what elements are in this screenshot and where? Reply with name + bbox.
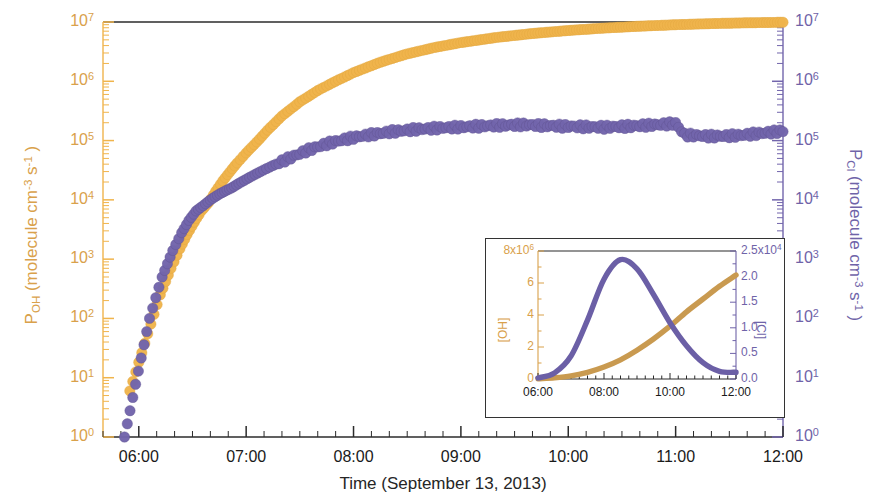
x-tick-label: 07:00 — [226, 448, 266, 466]
inset-y-right-tick-label: 0.0 — [741, 371, 758, 385]
y-left-tick-label: 103 — [40, 248, 94, 267]
x-tick-label: 06:00 — [119, 448, 159, 466]
y-right-tick-label: 101 — [795, 367, 849, 386]
y-right-tick-label: 104 — [795, 189, 849, 208]
inset-y-left-tick-label: 0 — [498, 371, 534, 385]
inset-y-left-tick-label: 6 — [498, 275, 534, 289]
y-right-tick-label: 107 — [795, 11, 849, 30]
y-left-tick-label: 102 — [40, 307, 94, 326]
inset-x-tick-label: 06:00 — [523, 385, 553, 399]
inset-y-right-tick-label: 2.0 — [741, 269, 758, 283]
x-tick-label: 11:00 — [656, 448, 695, 466]
inset-y-right-tick-label: 1.5 — [741, 294, 758, 308]
inset-y-left-tick-label: 4 — [498, 307, 534, 321]
inset-y-right-tick-label: 0.5 — [741, 345, 758, 359]
y-right-tick-label: 102 — [795, 307, 849, 326]
inset-y-left-top-label: 8x106 — [482, 243, 534, 257]
x-axis-title: Time (September 13, 2013) — [103, 474, 783, 494]
inset-y-right-tick-label: 1.0 — [741, 320, 758, 334]
figure-canvas: POH (molecule cm-3 s-1 ) PCl (molecule c… — [0, 0, 881, 502]
inset-x-tick-label: 08:00 — [589, 385, 619, 399]
y-left-tick-label: 107 — [40, 11, 94, 30]
x-tick-label: 09:00 — [441, 448, 481, 466]
inset-x-tick-label: 12:00 — [721, 385, 751, 399]
y-left-tick-label: 106 — [40, 70, 94, 89]
y-right-tick-label: 106 — [795, 70, 849, 89]
y-left-tick-label: 104 — [40, 189, 94, 208]
x-tick-label: 12:00 — [763, 448, 803, 466]
y-right-tick-label: 105 — [795, 130, 849, 149]
inset-y-left-tick-label: 2 — [498, 339, 534, 353]
y-left-tick-label: 105 — [40, 130, 94, 149]
x-tick-label: 10:00 — [548, 448, 588, 466]
y-left-tick-label: 100 — [40, 426, 94, 445]
inset-series-[Cl] — [538, 259, 736, 378]
inset-x-tick-label: 10:00 — [655, 385, 685, 399]
x-tick-label: 08:00 — [333, 448, 373, 466]
y-right-tick-label: 100 — [795, 426, 849, 445]
inset-y-right-top-label: 2.5x104 — [741, 243, 782, 257]
inset-chart: [OH] [Cl] 8x1066420 2.5x1042.01.51.00.50… — [485, 238, 785, 418]
y-left-tick-label: 101 — [40, 367, 94, 386]
y-right-tick-label: 103 — [795, 248, 849, 267]
